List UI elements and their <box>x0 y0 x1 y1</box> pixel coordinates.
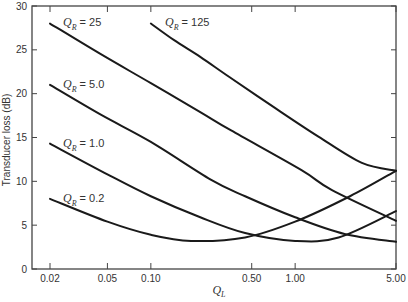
y-tick-label: 30 <box>16 1 28 12</box>
curve-125 <box>151 24 396 171</box>
curve-5-0 <box>50 85 396 242</box>
y-tick-label: 20 <box>16 88 28 99</box>
x-tick-label: 0.02 <box>40 273 60 284</box>
y-tick-label: 10 <box>16 176 28 187</box>
curve-label: QR= 25 <box>63 15 101 32</box>
y-tick-label: 15 <box>16 132 28 143</box>
y-tick-label: 0 <box>21 264 27 275</box>
x-tick-label: 1.00 <box>285 273 305 284</box>
curve-label: QR= 5.0 <box>63 77 104 94</box>
chart-canvas: 051015202530 0.020.050.100.501.005.00 QR… <box>0 0 408 302</box>
x-axis-title: QL <box>212 283 226 299</box>
curve-label: QR= 1.0 <box>63 136 104 153</box>
curve-label: QR= 0.2 <box>63 191 104 208</box>
x-tick-label: 5.00 <box>386 273 406 284</box>
x-tick-label: 0.05 <box>98 273 118 284</box>
y-tick-label: 25 <box>16 44 28 55</box>
x-tick-label: 0.10 <box>141 273 161 284</box>
y-axis-title: Transducer loss (dB) <box>1 94 12 186</box>
y-tick-label: 5 <box>21 220 27 231</box>
curves <box>50 24 396 242</box>
curve-0-2 <box>50 171 396 241</box>
x-tick-label: 0.50 <box>242 273 262 284</box>
curve-label: QR= 125 <box>165 15 209 32</box>
